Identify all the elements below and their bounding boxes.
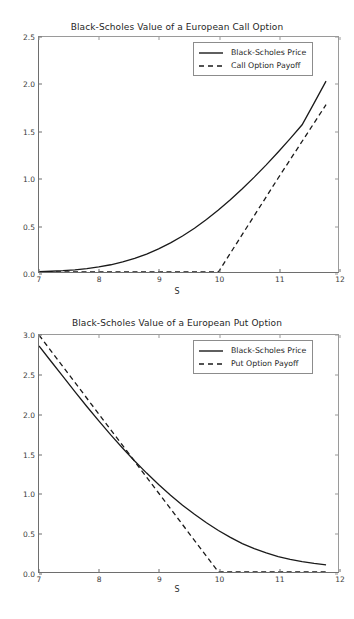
- y-tick-label: 0.5: [23, 222, 35, 231]
- x-tick-mark-top: [39, 335, 40, 338]
- y-tick-mark-right: [335, 37, 338, 38]
- legend-solid-line-icon: [198, 346, 224, 356]
- x-tick-mark-top: [159, 335, 160, 338]
- chart-title-put: Black-Scholes Value of a European Put Op…: [0, 318, 354, 328]
- x-tick-mark-top: [279, 37, 280, 40]
- legend-item-black-scholes-price: Black-Scholes Price: [198, 344, 306, 357]
- legend-solid-line-icon: [198, 48, 224, 58]
- chart-panel-put: Black-Scholes Value of a European Put Op…: [0, 300, 354, 619]
- x-tick-mark-top: [159, 37, 160, 40]
- x-tick-mark: [279, 269, 280, 272]
- chart-title-call: Black-Scholes Value of a European Call O…: [0, 22, 354, 32]
- y-tick-label: 1.0: [23, 490, 35, 499]
- y-tick-mark: [39, 131, 42, 132]
- y-tick-label: 1.0: [23, 175, 35, 184]
- series-line-call-option-payoff: [39, 105, 326, 272]
- y-tick-mark: [39, 226, 42, 227]
- x-tick-mark-top: [279, 335, 280, 338]
- legend-item-put-option-payoff: Put Option Payoff: [198, 357, 306, 370]
- legend-item-call-option-payoff: Call Option Payoff: [198, 59, 306, 72]
- figure-canvas: Black-Scholes Value of a European Call O…: [0, 0, 354, 619]
- chart-panel-call: Black-Scholes Value of a European Call O…: [0, 0, 354, 300]
- x-tick-label: 12: [335, 275, 345, 284]
- x-tick-label: 11: [275, 575, 285, 584]
- legend-label-black-scholes-price: Black-Scholes Price: [231, 48, 306, 57]
- x-tick-label: 7: [37, 275, 42, 284]
- y-tick-mark-right: [335, 494, 338, 495]
- x-tick-label: 8: [97, 575, 102, 584]
- x-tick-mark: [219, 569, 220, 572]
- x-tick-mark-top: [340, 37, 341, 40]
- legend-item-black-scholes-price: Black-Scholes Price: [198, 46, 306, 59]
- y-tick-label: 0.0: [23, 570, 35, 579]
- plot-area-call: 0.00.51.01.52.02.5 789101112 Black-Schol…: [38, 36, 339, 273]
- x-tick-mark: [340, 269, 341, 272]
- x-tick-mark: [39, 569, 40, 572]
- y-tick-mark: [39, 534, 42, 535]
- y-tick-mark: [39, 494, 42, 495]
- x-tick-label: 12: [335, 575, 345, 584]
- legend-label-call-option-payoff: Call Option Payoff: [231, 61, 300, 70]
- y-tick-label: 1.5: [23, 127, 35, 136]
- y-tick-mark: [39, 374, 42, 375]
- x-tick-mark-top: [99, 335, 100, 338]
- x-tick-mark: [279, 569, 280, 572]
- y-tick-mark-right: [335, 335, 338, 336]
- legend-label-put-option-payoff: Put Option Payoff: [231, 359, 298, 368]
- y-tick-mark-right: [335, 374, 338, 375]
- legend-put: Black-Scholes Price Put Option Payoff: [193, 340, 313, 374]
- x-tick-mark-top: [99, 37, 100, 40]
- y-tick-mark-right: [335, 534, 338, 535]
- y-tick-mark-right: [335, 226, 338, 227]
- y-tick-mark: [39, 414, 42, 415]
- y-tick-label: 0.0: [23, 270, 35, 279]
- x-axis-label-call: S: [0, 287, 354, 296]
- y-tick-label: 2.0: [23, 80, 35, 89]
- x-axis-label-put: S: [0, 585, 354, 594]
- series-line-black-scholes-price-call: [39, 81, 326, 271]
- x-tick-label: 8: [97, 275, 102, 284]
- y-tick-label: 2.5: [23, 370, 35, 379]
- x-tick-mark: [219, 269, 220, 272]
- y-tick-label: 2.0: [23, 410, 35, 419]
- x-tick-mark-top: [39, 37, 40, 40]
- y-tick-label: 0.5: [23, 530, 35, 539]
- legend-dashed-line-icon: [198, 61, 224, 71]
- legend-dashed-line-icon: [198, 359, 224, 369]
- legend-call: Black-Scholes Price Call Option Payoff: [193, 42, 313, 76]
- x-tick-mark: [39, 269, 40, 272]
- x-tick-label: 9: [157, 275, 162, 284]
- y-tick-mark-right: [335, 84, 338, 85]
- x-tick-mark-top: [219, 335, 220, 338]
- x-tick-label: 11: [275, 275, 285, 284]
- x-tick-label: 10: [215, 575, 225, 584]
- y-tick-label: 1.5: [23, 450, 35, 459]
- y-tick-mark-right: [335, 179, 338, 180]
- x-tick-label: 10: [215, 275, 225, 284]
- x-tick-label: 7: [37, 575, 42, 584]
- y-tick-label: 2.5: [23, 33, 35, 42]
- y-tick-mark-right: [335, 454, 338, 455]
- x-tick-mark: [340, 569, 341, 572]
- y-tick-mark-right: [335, 414, 338, 415]
- y-tick-mark: [39, 454, 42, 455]
- series-line-black-scholes-price-put: [39, 346, 326, 565]
- y-tick-label: 3.0: [23, 331, 35, 340]
- x-tick-mark-top: [219, 37, 220, 40]
- plot-area-put: 0.00.51.01.52.02.53.0 789101112 Black-Sc…: [38, 334, 339, 573]
- x-tick-mark: [159, 569, 160, 572]
- x-tick-mark: [159, 269, 160, 272]
- y-tick-mark-right: [335, 131, 338, 132]
- y-tick-mark: [39, 179, 42, 180]
- y-tick-mark: [39, 84, 42, 85]
- x-tick-mark: [99, 569, 100, 572]
- x-tick-label: 9: [157, 575, 162, 584]
- x-tick-mark: [99, 269, 100, 272]
- legend-label-black-scholes-price: Black-Scholes Price: [231, 346, 306, 355]
- x-tick-mark-top: [340, 335, 341, 338]
